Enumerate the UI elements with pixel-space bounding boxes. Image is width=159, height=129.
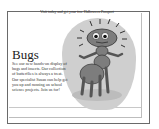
header-tagline: Visit today and get your free Halloween … <box>40 9 134 14</box>
page-bottom-rule <box>9 107 141 108</box>
article-title: Bugs <box>12 48 39 62</box>
ant-illustration-icon <box>72 18 132 102</box>
article-body: See our new hands-on display of bugs and… <box>12 61 70 92</box>
